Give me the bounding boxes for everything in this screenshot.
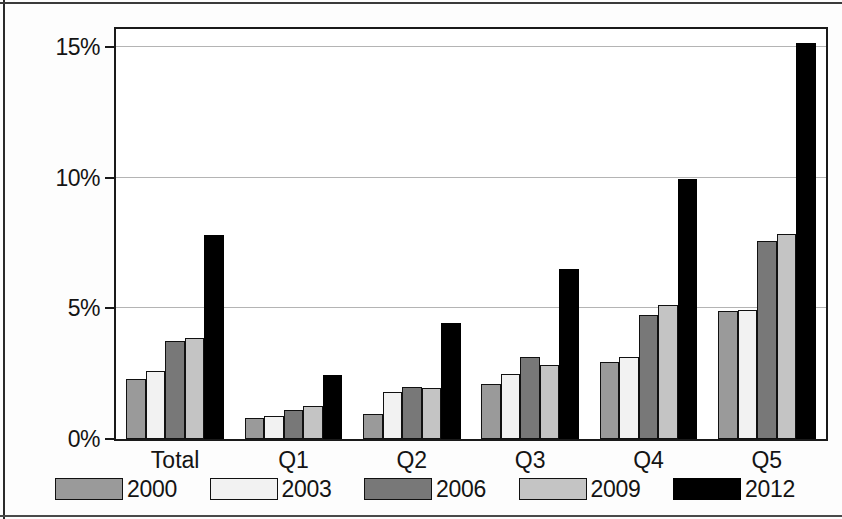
legend-swatch-2000 — [55, 478, 123, 500]
bar-q4-2009 — [658, 305, 678, 439]
bar-q5-2006 — [757, 241, 777, 439]
y-tick-label-5%: 5% — [8, 295, 100, 322]
chart-legend: 20002003200620092012 — [55, 474, 795, 504]
bar-q4-2006 — [639, 315, 659, 439]
legend-swatch-2009 — [519, 478, 587, 500]
plot-area — [114, 27, 828, 441]
legend-swatch-2003 — [210, 478, 278, 500]
legend-item-2006[interactable]: 2006 — [364, 476, 486, 503]
bar-q3-2012 — [559, 269, 579, 439]
bar-group-q3 — [471, 29, 589, 439]
legend-label-2003: 2003 — [282, 476, 332, 503]
bar-total-2009 — [185, 338, 205, 439]
bar-group-q1 — [234, 29, 352, 439]
bar-q2-2006 — [402, 387, 422, 439]
bar-q3-2000 — [481, 384, 501, 439]
y-tick-label-15%: 15% — [8, 34, 100, 61]
legend-label-2009: 2009 — [591, 476, 641, 503]
y-tick-label-0%: 0% — [8, 426, 100, 453]
bar-total-2000 — [126, 379, 146, 439]
y-tick-label-10%: 10% — [8, 164, 100, 191]
bar-q1-2006 — [284, 410, 304, 439]
bar-group-q4 — [589, 29, 707, 439]
legend-item-2003[interactable]: 2003 — [210, 476, 332, 503]
bar-q5-2000 — [718, 311, 738, 439]
bar-total-2006 — [165, 341, 185, 439]
bar-chart: 0%5%10%15% TotalQ1Q2Q3Q4Q5 2000200320062… — [0, 0, 842, 519]
figure-root: 0%5%10%15% TotalQ1Q2Q3Q4Q5 2000200320062… — [0, 0, 842, 519]
bar-q4-2012 — [678, 179, 698, 439]
bar-q2-2000 — [363, 414, 383, 439]
legend-swatch-2012 — [673, 478, 741, 500]
legend-label-2000: 2000 — [127, 476, 177, 503]
legend-swatch-2006 — [364, 478, 432, 500]
y-tick-mark-10% — [105, 177, 114, 179]
bar-q5-2003 — [738, 310, 758, 439]
bar-group-q2 — [353, 29, 471, 439]
legend-label-2006: 2006 — [436, 476, 486, 503]
legend-item-2009[interactable]: 2009 — [519, 476, 641, 503]
x-tick-label-q1: Q1 — [278, 447, 309, 474]
bar-q4-2000 — [600, 362, 620, 439]
bar-q1-2009 — [303, 406, 323, 439]
legend-item-2000[interactable]: 2000 — [55, 476, 177, 503]
bar-total-2012 — [204, 235, 224, 439]
bar-q4-2003 — [619, 357, 639, 439]
bar-q5-2012 — [796, 43, 816, 439]
bar-q1-2003 — [264, 416, 284, 440]
bar-q1-2012 — [323, 375, 343, 439]
x-tick-label-q4: Q4 — [633, 447, 664, 474]
bar-q3-2003 — [501, 374, 521, 439]
bar-q2-2003 — [383, 392, 403, 439]
y-tick-mark-0% — [105, 438, 114, 440]
bar-q2-2009 — [422, 388, 442, 439]
bar-group-total — [116, 29, 234, 439]
y-tick-mark-5% — [105, 307, 114, 309]
x-tick-label-q3: Q3 — [515, 447, 546, 474]
bar-q2-2012 — [441, 323, 461, 439]
bar-q3-2009 — [540, 365, 560, 439]
legend-label-2012: 2012 — [745, 476, 795, 503]
y-tick-mark-15% — [105, 46, 114, 48]
bar-q3-2006 — [520, 357, 540, 439]
bar-total-2003 — [146, 371, 166, 439]
legend-item-2012[interactable]: 2012 — [673, 476, 795, 503]
bar-q5-2009 — [777, 234, 797, 439]
x-tick-label-q5: Q5 — [751, 447, 782, 474]
bar-group-q5 — [708, 29, 826, 439]
bar-q1-2000 — [245, 418, 265, 439]
x-tick-label-total: Total — [151, 447, 200, 474]
x-tick-label-q2: Q2 — [396, 447, 427, 474]
